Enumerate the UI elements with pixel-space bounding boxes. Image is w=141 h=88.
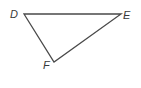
vertex-label-f: F (43, 59, 51, 71)
triangle-diagram: D E F (0, 0, 141, 88)
triangle-def (24, 14, 121, 62)
vertex-label-d: D (10, 8, 18, 20)
vertex-label-e: E (123, 9, 131, 21)
